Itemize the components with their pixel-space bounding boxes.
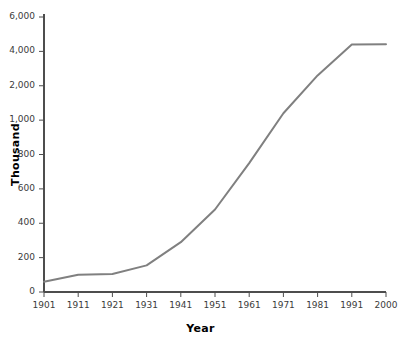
y-tick-label: 2,000	[0, 80, 35, 90]
line-chart: 02004006008001,0002,0004,0006,000 190119…	[0, 0, 401, 345]
x-axis-title: Year	[0, 322, 401, 335]
data-series-line	[44, 44, 386, 282]
y-tick-label: 6,000	[0, 11, 35, 21]
y-tick-label: 400	[0, 217, 35, 227]
y-tick-label: 0	[0, 286, 35, 296]
y-axis-title: Thousand	[9, 115, 22, 195]
y-tick-label: 200	[0, 252, 35, 262]
y-tick-label: 4,000	[0, 45, 35, 55]
x-tick-label: 2000	[366, 300, 401, 310]
plot-area	[0, 0, 401, 345]
axis-ticks	[39, 17, 386, 297]
